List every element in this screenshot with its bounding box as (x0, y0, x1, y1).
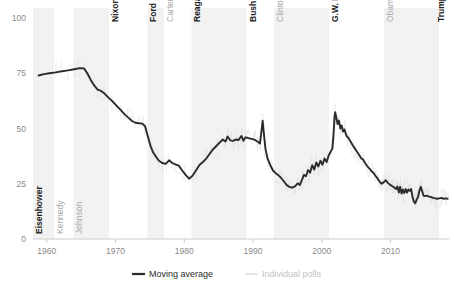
president-label-nixon: Nixon (110, 0, 120, 22)
chart-legend: Moving averageIndividual polls (132, 269, 322, 279)
party-band-clinton (274, 8, 329, 239)
presidential-approval-chart: 0255075100 196019701980199020002010 Eise… (0, 0, 454, 293)
president-label-johnson: Johnson (74, 202, 84, 234)
y-tick-label: 100 (12, 13, 26, 23)
x-tick-label: 2010 (381, 246, 400, 256)
president-label-carter: Carter (165, 0, 175, 22)
party-band-ford (147, 8, 164, 239)
legend-label-2: Individual polls (262, 269, 322, 279)
president-label-trump: Trump (436, 0, 446, 22)
president-label-clinton: Clinton (275, 0, 285, 22)
y-tick-label: 50 (17, 124, 27, 134)
party-band-reagan (191, 8, 246, 239)
president-label-reagan: Reagan (192, 0, 202, 22)
y-tick-label: 75 (17, 68, 27, 78)
president-label-g-w--bush: G.W. Bush (330, 0, 340, 22)
x-tick-label: 1960 (37, 246, 56, 256)
y-tick-label: 25 (17, 179, 27, 189)
party-bands (33, 8, 439, 239)
president-label-obama: Obama (385, 0, 395, 22)
legend-label-1: Moving average (149, 269, 213, 279)
x-tick-label: 1990 (244, 246, 263, 256)
president-label-bush: Bush (248, 1, 258, 22)
x-tick-label: 2000 (312, 246, 331, 256)
party-band-obama (384, 8, 439, 239)
president-label-ford: Ford (148, 3, 158, 22)
x-tick-label: 1980 (175, 246, 194, 256)
chart-canvas: 0255075100 196019701980199020002010 Eise… (0, 0, 454, 293)
x-tick-label: 1970 (106, 246, 125, 256)
y-tick-label: 0 (21, 234, 26, 244)
president-label-eisenhower: Eisenhower (34, 186, 44, 234)
y-axis-ticks: 0255075100 (12, 13, 26, 244)
x-axis-ticks: 196019701980199020002010 (37, 239, 400, 256)
president-label-kennedy: Kennedy (55, 200, 65, 234)
